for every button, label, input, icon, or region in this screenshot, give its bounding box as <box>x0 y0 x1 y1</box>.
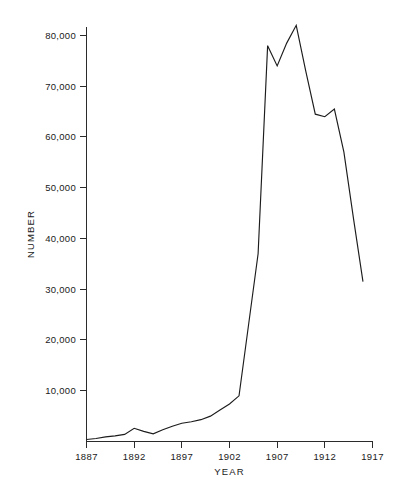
x-tick-label-1897: 1897 <box>170 451 193 462</box>
y-axis-tick-labels: 10,000 20,000 30,000 40,000 50,000 60,00… <box>45 30 76 396</box>
data-series-line <box>87 25 363 439</box>
y-tick-label-60000: 60,000 <box>45 131 76 142</box>
chart-svg: 10,000 20,000 30,000 40,000 50,000 60,00… <box>0 0 397 487</box>
x-tick-label-1912: 1912 <box>313 451 336 462</box>
x-tick-label-1887: 1887 <box>75 451 98 462</box>
y-tick-label-10000: 10,000 <box>45 385 76 396</box>
y-axis-ticks <box>80 36 87 391</box>
line-chart-figure: 10,000 20,000 30,000 40,000 50,000 60,00… <box>0 0 397 487</box>
x-tick-label-1902: 1902 <box>218 451 241 462</box>
x-tick-label-1917: 1917 <box>361 451 384 462</box>
x-axis-tick-labels: 1887 1892 1897 1902 1907 1912 1917 <box>75 451 384 462</box>
y-tick-label-30000: 30,000 <box>45 284 76 295</box>
x-axis-title: YEAR <box>214 466 244 477</box>
y-tick-label-20000: 20,000 <box>45 334 76 345</box>
x-axis-ticks <box>87 442 373 449</box>
y-tick-label-80000: 80,000 <box>45 30 76 41</box>
y-tick-label-70000: 70,000 <box>45 81 76 92</box>
x-tick-label-1892: 1892 <box>123 451 146 462</box>
y-tick-label-50000: 50,000 <box>45 182 76 193</box>
y-tick-label-40000: 40,000 <box>45 233 76 244</box>
x-tick-label-1907: 1907 <box>266 451 289 462</box>
y-axis-title: NUMBER <box>25 210 36 258</box>
